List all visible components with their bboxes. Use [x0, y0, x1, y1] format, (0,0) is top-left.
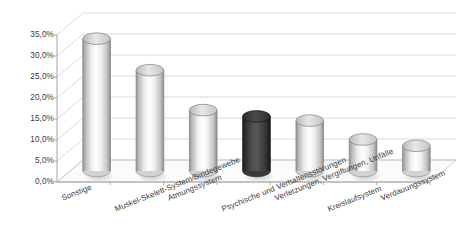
x-axis-category-label: Kreislaufsystem: [326, 184, 382, 214]
x-axis-category-label: Sonstige: [60, 183, 93, 203]
x-axis-category-labels: SonstigeMuskel-Skelett-System/Bindegeweb…: [0, 0, 461, 244]
bar-chart: 0,0%5,0%10,0%15,0%20,0%25,0%30,0%35,0% S…: [0, 0, 461, 244]
x-axis-category-label: Verdauungssystem: [380, 169, 447, 203]
